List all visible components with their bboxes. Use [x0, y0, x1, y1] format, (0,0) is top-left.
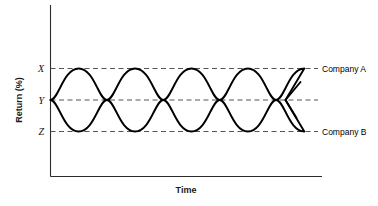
y-axis-title: Return (%) — [14, 77, 24, 123]
y-tick-label-x: X — [37, 63, 45, 74]
y-tick-label-z: Z — [38, 126, 44, 137]
series-label-company-b: Company B — [322, 127, 367, 137]
x-axis-title: Time — [176, 185, 197, 195]
chart-background — [0, 0, 378, 206]
series-label-company-a: Company A — [322, 64, 366, 74]
return-vs-time-chart: X Y Z Return (%) Time Company A Company … — [0, 0, 378, 206]
